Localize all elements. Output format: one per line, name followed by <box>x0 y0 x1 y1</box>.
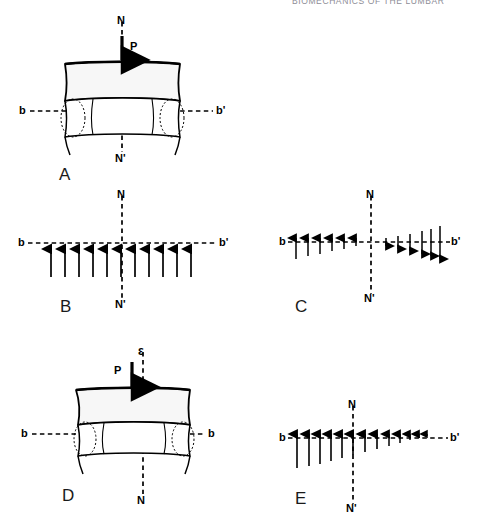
panel-c-label-b: b <box>279 235 286 247</box>
biomechanics-figure <box>0 0 481 532</box>
panel-d-intervertebral-disc <box>78 422 190 456</box>
panel-letter-a: A <box>59 165 70 185</box>
panel-d-label-b-left: b <box>21 427 28 439</box>
panel-d-label-p: P <box>114 364 121 376</box>
panel-d-label-epsilon: ε <box>138 344 144 358</box>
panel-d-label-n: N <box>137 494 145 506</box>
panel-e-label-n-prime: N' <box>346 502 357 514</box>
panel-d-inferior-left-tail <box>78 456 83 474</box>
panel-c-label-n: N <box>366 188 374 200</box>
panel-a <box>30 22 213 155</box>
panel-b-label-b: b <box>18 236 25 248</box>
panel-e-label-b: b <box>279 431 286 443</box>
panel-letter-d: D <box>62 486 74 506</box>
panel-b-label-n-prime: N' <box>115 298 126 310</box>
panel-d-inferior-right-tail <box>185 456 190 474</box>
panel-a-label-n-prime: N' <box>115 152 126 164</box>
panel-b <box>28 196 216 300</box>
panel-b-label-n: N <box>117 188 125 200</box>
panel-d-label-b-right: b <box>208 427 215 439</box>
panel-a-intervertebral-disc <box>65 98 180 137</box>
panel-b-stress-arrows <box>51 249 191 277</box>
panel-a-inferior-right-tail <box>175 137 180 155</box>
panel-a-label-n: N <box>117 14 125 26</box>
panel-a-inferior-left-tail <box>65 137 70 155</box>
panel-a-label-b-prime: b' <box>216 104 225 116</box>
panel-letter-b: B <box>60 297 71 317</box>
panel-letter-c: C <box>295 297 307 317</box>
panel-c <box>288 196 450 294</box>
panel-c-label-b-prime: b' <box>451 235 460 247</box>
panel-a-vertebral-body <box>65 62 180 101</box>
panel-c-label-n-prime: N' <box>364 292 375 304</box>
panel-b-label-b-prime: b' <box>219 236 228 248</box>
panel-a-label-p: P <box>130 40 137 52</box>
panel-d-vertebral-body <box>76 388 190 425</box>
panel-e <box>288 406 448 504</box>
panel-a-label-b: b <box>19 104 26 116</box>
panel-e-stress-arrows <box>297 434 427 468</box>
panel-e-label-n: N <box>348 398 356 410</box>
panel-letter-e: E <box>295 489 306 509</box>
panel-e-label-b-prime: b' <box>450 431 459 443</box>
